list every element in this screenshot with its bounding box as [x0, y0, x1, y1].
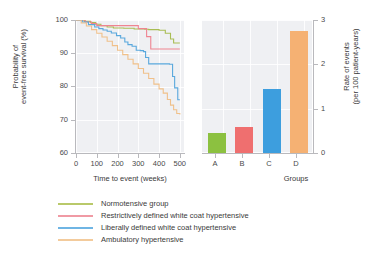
km-x-tick [76, 154, 77, 158]
bar-x-tick [269, 154, 270, 158]
kaplan-meier-panel: Probability of event-free survival (%) [0, 0, 200, 190]
km-x-tick-label: 500 [170, 160, 190, 168]
bar-x-tick [296, 154, 297, 158]
legend-item-1: Normotensive group [58, 198, 358, 210]
km-x-tick-label: 0 [66, 160, 86, 168]
bar-a [208, 133, 226, 153]
bar-x-tick [215, 154, 216, 158]
bar-y-tick [314, 20, 318, 21]
bar-b [235, 127, 253, 153]
km-curves-svg [76, 20, 184, 153]
km-y-tick [71, 120, 75, 121]
km-series-group [76, 20, 180, 114]
legend-color-swatch [58, 215, 93, 217]
km-curve-3 [76, 20, 180, 100]
bar-y-tick [314, 153, 318, 154]
bar-y-axis-title-2: (per 100 patient-years) [351, 19, 360, 115]
legend: Normotensive groupRestrictively defined … [58, 198, 358, 246]
bar-x-tick-label: A [205, 160, 225, 168]
km-y-axis-line [75, 20, 76, 154]
km-y-axis-title-line2: event-free survival (%) [19, 19, 28, 115]
legend-label: Normotensive group [101, 200, 169, 208]
legend-color-swatch [58, 203, 93, 205]
legend-label: Restrictively defined white coat hyperte… [101, 212, 249, 220]
bar-x-axis-line [202, 153, 314, 154]
bar-plot-area [202, 20, 312, 153]
legend-item-3: Liberally defined white coat hypertensiv… [58, 222, 358, 234]
legend-label: Liberally defined white coat hypertensiv… [101, 224, 236, 232]
bar-x-tick-label: B [232, 160, 252, 168]
bar-y-tick-label: 3 [321, 16, 325, 24]
km-curve-4 [76, 20, 180, 114]
bar-y-axis-line [313, 20, 314, 154]
bar-x-axis-title: Groups [266, 175, 326, 184]
km-y-tick-label: 60 [46, 149, 68, 157]
km-x-tick-label: 300 [128, 160, 148, 168]
legend-item-2: Restrictively defined white coat hyperte… [58, 210, 358, 222]
km-x-axis-title: Time to event (weeks) [70, 175, 190, 184]
km-x-tick [180, 154, 181, 158]
km-x-tick-label: 200 [108, 160, 128, 168]
km-plot-area [76, 20, 184, 153]
legend-color-swatch [58, 227, 93, 229]
figure-container: Probability of event-free survival (%) [0, 0, 372, 254]
km-y-tick-label: 100 [46, 16, 68, 24]
legend-label: Ambulatory hypertensive [101, 236, 184, 244]
km-y-tick [71, 153, 75, 154]
km-x-tick-label: 400 [149, 160, 169, 168]
km-y-tick-label: 80 [46, 82, 68, 90]
km-x-tick [97, 154, 98, 158]
bar-y-tick [314, 109, 318, 110]
km-y-tick-label: 90 [46, 49, 68, 57]
km-y-tick [71, 20, 75, 21]
event-rate-panel: 3 2 1 0 A B C D Groups Rate of events (p… [196, 0, 372, 190]
bar-x-tick-label: D [286, 160, 306, 168]
km-x-axis-line [75, 153, 185, 154]
bar-d [290, 31, 308, 153]
bar-y-tick-label: 0 [321, 149, 325, 157]
km-x-tick [138, 154, 139, 158]
bar-c [263, 89, 281, 153]
km-y-axis-title-2: event-free survival (%) [19, 19, 28, 115]
km-y-tick-label: 70 [46, 116, 68, 124]
km-x-tick [159, 154, 160, 158]
bar-y-tick-label: 2 [321, 60, 325, 68]
km-x-tick-label: 100 [87, 160, 107, 168]
km-x-tick [118, 154, 119, 158]
bar-x-tick [242, 154, 243, 158]
bar-x-tick-label: C [259, 160, 279, 168]
bar-y-axis-title: Rate of events [342, 19, 351, 115]
bar-y-tick-label: 1 [321, 105, 325, 113]
legend-color-swatch [58, 239, 93, 241]
panels-row: Probability of event-free survival (%) [0, 0, 372, 190]
legend-item-4: Ambulatory hypertensive [58, 234, 358, 246]
km-y-tick [71, 53, 75, 54]
km-y-tick [71, 86, 75, 87]
bar-y-axis-title-line1: Rate of events [342, 19, 351, 115]
bar-y-tick [314, 64, 318, 65]
bar-y-axis-title-line2: (per 100 patient-years) [351, 19, 360, 115]
bar-gridline-h [202, 20, 312, 21]
